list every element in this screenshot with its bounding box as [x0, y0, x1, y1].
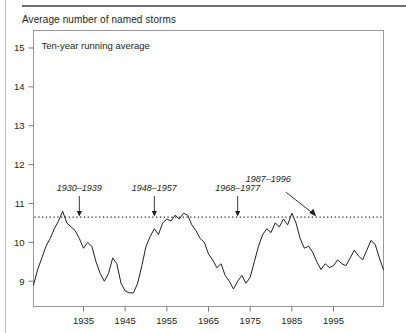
- x-axis-label: 1945: [115, 315, 136, 326]
- data-series-line: [34, 211, 384, 293]
- panel-label: Ten-year running average: [42, 40, 150, 51]
- y-axis-label: 12: [14, 159, 25, 170]
- annotation-arrowhead: [152, 211, 157, 217]
- y-axis-label: 11: [15, 198, 25, 209]
- figure-container: Average number of named storms Ten-year …: [0, 0, 406, 333]
- y-axis-label: 13: [14, 120, 25, 131]
- annotation-arrow: [286, 192, 314, 214]
- x-axis-label: 1965: [198, 315, 219, 326]
- annotation-arrowhead: [235, 211, 240, 217]
- y-axis-label: 14: [14, 81, 25, 92]
- y-axis-label: 10: [14, 237, 25, 248]
- x-axis-label: 1995: [323, 315, 344, 326]
- annotation-label: 1987–1996: [246, 174, 291, 184]
- plot-frame: [34, 31, 384, 307]
- annotation-label: 1968–1977: [215, 183, 261, 193]
- chart-plot: Ten-year running average9101112131415193…: [0, 0, 406, 333]
- annotation-arrowhead: [77, 211, 82, 217]
- y-axis-label: 9: [19, 276, 24, 287]
- annotation-arrowhead: [309, 209, 316, 217]
- y-axis-label: 15: [14, 42, 25, 53]
- x-axis-label: 1935: [73, 315, 94, 326]
- x-axis-label: 1985: [281, 315, 302, 326]
- annotation-label: 1930–1939: [57, 183, 102, 193]
- annotation-label: 1948–1957: [132, 183, 178, 193]
- x-axis-label: 1975: [240, 315, 261, 326]
- x-axis-label: 1955: [156, 315, 177, 326]
